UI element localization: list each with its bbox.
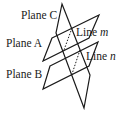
plane-c-label: Plane C xyxy=(21,10,57,22)
line-n-label-var: n xyxy=(110,50,116,62)
plane-c-shape xyxy=(56,4,90,108)
plane-a-label-text: Plane A xyxy=(6,37,42,49)
line-n-label-prefix: Line xyxy=(86,50,110,62)
line-m-label-prefix: Line xyxy=(76,26,100,38)
line-n-label: Line n xyxy=(86,51,116,63)
line-m-label-var: m xyxy=(100,26,108,38)
plane-b-label-text: Plane B xyxy=(6,68,42,80)
plane-c-label-text: Plane C xyxy=(21,9,57,21)
plane-b-label: Plane B xyxy=(6,69,42,81)
line-m-label: Line m xyxy=(76,27,108,39)
plane-a-label: Plane A xyxy=(6,38,42,50)
